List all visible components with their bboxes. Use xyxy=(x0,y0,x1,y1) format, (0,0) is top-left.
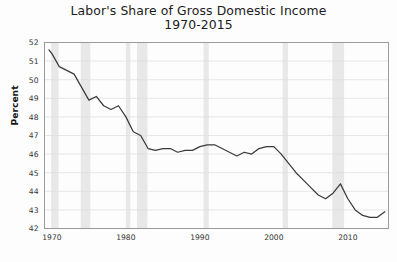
x-tick-label: 1970 xyxy=(42,233,61,242)
x-axis-ticks: 19701980199020002010 xyxy=(42,233,357,242)
chart-figure: Labor's Share of Gross Domestic Income 1… xyxy=(0,0,397,262)
y-tick-label: 49 xyxy=(29,94,39,103)
y-tick-label: 47 xyxy=(29,131,39,140)
y-tick-label: 46 xyxy=(29,150,39,159)
y-tick-label: 44 xyxy=(29,187,39,196)
y-tick-label: 52 xyxy=(29,38,39,47)
chart-plot-area: 4243444546474849505152 19701980199020002… xyxy=(0,0,397,262)
y-tick-label: 42 xyxy=(29,224,39,233)
x-tick-label: 2000 xyxy=(264,233,283,242)
y-tick-label: 48 xyxy=(29,113,39,122)
y-tick-label: 50 xyxy=(29,76,39,85)
y-tick-label: 51 xyxy=(29,57,39,66)
x-tick-label: 1990 xyxy=(190,233,209,242)
y-tick-label: 45 xyxy=(29,169,39,178)
y-axis-ticks: 4243444546474849505152 xyxy=(29,38,39,233)
x-tick-label: 2010 xyxy=(338,233,357,242)
y-tick-label: 43 xyxy=(29,206,39,215)
x-tick-label: 1980 xyxy=(116,233,135,242)
